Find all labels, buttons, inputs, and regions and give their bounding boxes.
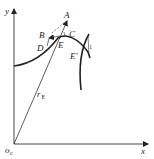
point-label-E-prime: E' — [69, 51, 78, 61]
y-axis-label: y — [4, 6, 9, 16]
secondary-arc — [80, 34, 89, 90]
point-label-B: B — [39, 30, 45, 40]
tick-D — [47, 39, 49, 46]
point-label-A: A — [63, 10, 70, 20]
point-label-D: D — [36, 43, 44, 53]
origin-subscript: c — [10, 150, 13, 156]
radius-label: r — [37, 89, 41, 99]
trajectory-arc — [14, 36, 90, 66]
marker-label-1: 1 — [89, 44, 92, 50]
point-label-C: C — [69, 29, 76, 39]
geometry-diagram: y x o c r E A B C D E E' 1 — [0, 0, 154, 159]
x-axis-label: x — [140, 146, 145, 156]
dashed-guide-A — [52, 22, 65, 33]
point-label-E: E — [57, 40, 64, 50]
radius-subscript: E — [42, 94, 46, 100]
